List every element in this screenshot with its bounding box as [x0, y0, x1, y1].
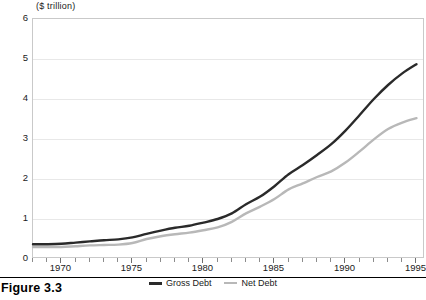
x-tick-minor — [160, 258, 161, 262]
x-tick-minor — [117, 258, 118, 262]
series-layer — [33, 19, 425, 259]
x-tick-minor — [174, 258, 175, 262]
x-tick-minor — [103, 258, 104, 262]
plot-area — [32, 18, 424, 258]
x-tick-label: 1985 — [263, 263, 284, 273]
legend-swatch — [224, 282, 237, 284]
x-axis-tick-labels: 197019751980198519901995 — [32, 263, 424, 277]
x-tick-minor — [46, 258, 47, 262]
x-tick-minor — [401, 258, 402, 262]
x-tick-minor — [387, 258, 388, 262]
x-tick-minor — [217, 258, 218, 262]
x-tick-label: 1975 — [121, 263, 142, 273]
y-tick-label: 5 — [6, 53, 28, 63]
legend-label: Net Debt — [241, 279, 277, 288]
x-tick-minor — [89, 258, 90, 262]
x-tick-label: 1995 — [405, 263, 426, 273]
y-tick-label: 0 — [6, 253, 28, 263]
x-tick-minor — [302, 258, 303, 262]
caption-divider — [0, 277, 426, 278]
series-line-gross-debt — [33, 64, 416, 244]
y-tick-label: 6 — [6, 13, 28, 23]
y-axis-unit-label: ($ trillion) — [36, 1, 75, 11]
legend-swatch — [149, 282, 162, 285]
figure-container: ($ trillion) 0123456 1970197519801985199… — [0, 0, 426, 300]
x-tick-minor — [245, 258, 246, 262]
x-tick-minor — [146, 258, 147, 262]
x-tick-minor — [316, 258, 317, 262]
y-axis-tick-labels: 0123456 — [0, 18, 28, 258]
x-tick-minor — [359, 258, 360, 262]
x-tick-minor — [373, 258, 374, 262]
legend-entry: Net Debt — [224, 279, 277, 288]
legend-label: Gross Debt — [166, 279, 212, 288]
x-tick-minor — [259, 258, 260, 262]
x-tick-label: 1990 — [334, 263, 355, 273]
series-line-net-debt — [33, 118, 416, 247]
x-tick-minor — [231, 258, 232, 262]
x-tick-minor — [288, 258, 289, 262]
x-tick-minor — [330, 258, 331, 262]
x-tick-minor — [188, 258, 189, 262]
legend-entry: Gross Debt — [149, 279, 212, 288]
y-tick-label: 4 — [6, 93, 28, 103]
y-tick-label: 1 — [6, 213, 28, 223]
x-tick-minor — [75, 258, 76, 262]
y-tick-label: 3 — [6, 133, 28, 143]
y-tick-label: 2 — [6, 173, 28, 183]
figure-caption: Figure 3.3 — [1, 282, 62, 295]
x-tick-minor — [32, 258, 33, 262]
x-tick-label: 1970 — [50, 263, 71, 273]
x-tick-label: 1980 — [192, 263, 213, 273]
chart-legend: Gross DebtNet Debt — [0, 276, 426, 290]
